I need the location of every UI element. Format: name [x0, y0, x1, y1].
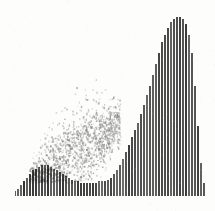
- cloud-speck: [98, 148, 99, 150]
- cloud-speck: [66, 165, 68, 166]
- cloud-speck: [78, 178, 80, 179]
- cloud-speck: [59, 159, 60, 161]
- grain-speck: [207, 205, 208, 206]
- cloud-speck: [80, 176, 81, 178]
- cloud-speck: [54, 156, 55, 158]
- grain-speck: [213, 57, 214, 58]
- cloud-speck: [32, 157, 33, 159]
- cloud-speck: [67, 159, 68, 160]
- cloud-speck: [69, 144, 71, 145]
- cloud-speck: [96, 135, 97, 137]
- cloud-speck: [101, 145, 102, 147]
- cloud-speck: [79, 132, 81, 133]
- cloud-speck: [74, 151, 76, 152]
- cloud-speck: [101, 119, 102, 120]
- cloud-speck: [100, 131, 101, 132]
- grain-speck: [7, 26, 8, 27]
- cloud-speck: [109, 117, 110, 119]
- cloud-speck: [104, 138, 106, 140]
- cloud-speck: [105, 123, 106, 124]
- cloud-speck: [118, 116, 119, 118]
- cloud-speck: [54, 150, 55, 152]
- cloud-speck: [87, 149, 88, 150]
- cloud-speck: [90, 126, 91, 127]
- cloud-speck: [31, 168, 33, 169]
- cloud-speck: [40, 139, 41, 141]
- cloud-speck: [39, 154, 40, 155]
- cloud-speck: [79, 153, 81, 154]
- cloud-speck: [92, 153, 93, 155]
- cloud-speck: [102, 125, 103, 127]
- grain-speck: [12, 187, 13, 188]
- cloud-speck: [84, 159, 86, 161]
- cloud-speck: [115, 126, 117, 127]
- cloud-speck: [84, 166, 86, 168]
- cloud-speck: [100, 138, 101, 139]
- bar: [23, 181, 25, 196]
- grain-speck: [166, 201, 167, 202]
- cloud-speck: [96, 154, 97, 156]
- cloud-speck: [65, 156, 66, 158]
- bar: [125, 152, 127, 196]
- cloud-speck: [91, 124, 92, 125]
- cloud-speck: [85, 98, 87, 100]
- cloud-speck: [98, 148, 100, 150]
- cloud-speck: [84, 161, 86, 163]
- cloud-speck: [69, 144, 70, 146]
- cloud-speck: [96, 144, 97, 145]
- cloud-speck: [85, 122, 86, 123]
- cloud-speck: [58, 167, 60, 169]
- cloud-speck: [97, 145, 99, 146]
- cloud-speck: [71, 137, 73, 139]
- cloud-speck: [80, 145, 82, 147]
- cloud-speck: [108, 127, 109, 129]
- cloud-speck: [76, 175, 78, 176]
- cloud-speck: [102, 140, 103, 142]
- cloud-speck: [86, 155, 88, 157]
- grain-speck: [210, 34, 211, 35]
- cloud-speck: [60, 165, 61, 167]
- grain-speck: [27, 201, 28, 202]
- cloud-speck: [118, 139, 120, 141]
- cloud-speck: [50, 145, 52, 147]
- cloud-speck: [107, 127, 109, 128]
- bar: [134, 130, 136, 196]
- cloud-speck: [67, 172, 68, 174]
- cloud-speck: [65, 168, 66, 169]
- cloud-speck: [100, 120, 101, 122]
- cloud-speck: [72, 160, 73, 162]
- cloud-speck: [96, 128, 97, 129]
- cloud-speck: [63, 133, 64, 134]
- cloud-speck: [103, 156, 104, 158]
- cloud-speck: [86, 132, 87, 133]
- grain-speck: [149, 203, 150, 204]
- cloud-speck: [119, 116, 120, 118]
- grain-speck: [39, 210, 40, 211]
- cloud-speck: [68, 153, 70, 155]
- cloud-speck: [95, 118, 96, 120]
- cloud-speck: [116, 123, 118, 124]
- cloud-speck: [75, 145, 77, 147]
- cloud-speck: [81, 156, 83, 158]
- cloud-speck: [91, 120, 92, 122]
- cloud-speck: [113, 113, 114, 115]
- cloud-speck: [120, 136, 122, 138]
- cloud-speck: [107, 118, 109, 120]
- cloud-speck: [73, 174, 75, 176]
- cloud-speck: [100, 152, 101, 154]
- cloud-speck: [73, 124, 74, 126]
- grain-speck: [178, 199, 179, 200]
- cloud-speck: [41, 147, 42, 149]
- bar: [98, 181, 100, 196]
- cloud-speck: [108, 124, 109, 126]
- cloud-speck: [105, 120, 107, 122]
- grain-speck: [16, 6, 17, 7]
- cloud-speck: [71, 169, 73, 170]
- cloud-speck: [73, 144, 74, 146]
- bar: [173, 19, 175, 197]
- cloud-speck: [80, 136, 81, 138]
- cloud-speck: [91, 158, 92, 160]
- cloud-speck: [111, 150, 112, 152]
- cloud-speck: [89, 135, 90, 137]
- cloud-speck: [66, 162, 67, 164]
